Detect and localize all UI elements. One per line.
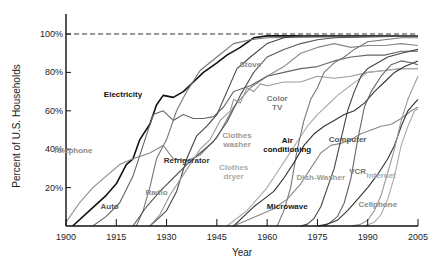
household-adoption-chart: 20%40%60%80%100% 19001915193019451960197… bbox=[0, 0, 448, 274]
x-tick-label: 1975 bbox=[307, 232, 327, 242]
series-label-clothes-washer: Clotheswasher bbox=[222, 131, 252, 149]
series-label-radio: Radio bbox=[145, 188, 167, 197]
y-axis-title: Percent of U.S. Households bbox=[11, 64, 22, 187]
series-line-refrigerator bbox=[150, 36, 418, 226]
series-label-telephone: Telephone bbox=[53, 146, 93, 155]
y-tick-label: 80% bbox=[45, 67, 63, 77]
series-label-stove: Stove bbox=[239, 60, 261, 69]
series-labels: ElectricityTelephoneAutoRadioRefrigerato… bbox=[53, 60, 398, 211]
series-label-vcr: VCR bbox=[349, 167, 366, 176]
series-label-cellphone: Cellphone bbox=[358, 200, 397, 209]
series-label-auto: Auto bbox=[100, 202, 118, 211]
series-label-computer: Computer bbox=[329, 135, 367, 144]
x-tick-label: 1900 bbox=[56, 232, 76, 242]
series-label-internet: Internet bbox=[366, 171, 396, 180]
series-label-microwave: Microwave bbox=[267, 202, 308, 211]
y-tick-label: 100% bbox=[40, 29, 63, 39]
y-tick-label: 60% bbox=[45, 106, 63, 116]
series-label-color-tv: ColorTV bbox=[267, 94, 288, 112]
x-tick-label: 1945 bbox=[207, 232, 227, 242]
x-tick-label: 1930 bbox=[157, 232, 177, 242]
x-tick-label: 1915 bbox=[106, 232, 126, 242]
series-label-air-conditioning: Airconditioning bbox=[263, 136, 311, 154]
series-line-color-tv bbox=[277, 38, 418, 226]
x-tick-label: 2005 bbox=[408, 232, 428, 242]
x-tick-label: 1990 bbox=[358, 232, 378, 242]
x-axis-title: Year bbox=[232, 247, 253, 258]
series-label-electricity: Electricity bbox=[104, 90, 143, 99]
series-label-clothes-dryer: Clothesdryer bbox=[219, 163, 249, 181]
series-label-refrigerator: Refrigerator bbox=[164, 156, 210, 165]
x-tick-label: 1960 bbox=[257, 232, 277, 242]
y-tick-label: 20% bbox=[45, 183, 63, 193]
series-label-dish-washer: Dish-Washer bbox=[296, 173, 345, 182]
